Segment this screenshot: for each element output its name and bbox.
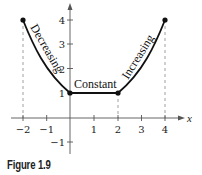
point-neg2-4	[20, 17, 25, 22]
y-tick-label: 3	[59, 39, 65, 50]
x-tick-label: 3	[138, 124, 144, 135]
x-axis-arrow-icon	[178, 116, 185, 121]
function-graph: −2 −1 1 2 3 4 x 4 3 2 1 −1 Decreasing Co…	[0, 0, 202, 175]
x-tick-label: −2	[16, 124, 31, 135]
y-tick-label: 1	[59, 88, 65, 99]
figure-caption: Figure 1.9	[7, 158, 51, 172]
x-axis	[11, 115, 185, 121]
x-axis-label: x	[186, 112, 192, 124]
y-axis-arrow-icon	[68, 3, 73, 10]
point-0-1	[67, 90, 72, 95]
x-tick-label: −1	[39, 124, 54, 135]
y-tick-label: −1	[50, 137, 65, 148]
x-tick-label: 4	[162, 124, 168, 135]
point-4-4	[162, 17, 167, 22]
y-tick-label: 4	[59, 15, 65, 26]
x-tick-label: 2	[115, 124, 121, 135]
point-2-1	[115, 90, 120, 95]
constant-label: Constant	[74, 77, 117, 91]
x-tick-labels: −2 −1 1 2 3 4 x	[16, 112, 192, 135]
increasing-label: Increasing	[119, 32, 157, 82]
x-tick-label: 1	[91, 124, 97, 135]
y-axis	[67, 3, 73, 154]
